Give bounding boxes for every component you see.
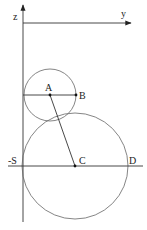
segment-ac [50,95,75,166]
label-c: C [79,155,86,166]
y-axis-label: y [121,8,126,19]
label-a: A [45,82,53,93]
label-b: B [79,90,86,101]
label-s: -S [8,155,17,166]
point-b [75,94,78,97]
point-a [49,94,52,97]
label-d: D [129,155,136,166]
point-c [74,165,77,168]
z-axis-label: z [13,11,18,22]
mohr-circle-diagram: z y A B C D -S [0,0,147,230]
